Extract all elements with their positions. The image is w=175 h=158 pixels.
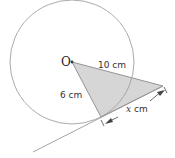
center-point [71,61,74,64]
geometry-diagram: O 10 cm 6 cm x cm [0,0,175,158]
center-label: O [61,55,71,69]
tangent-unit: cm [131,104,148,114]
tangent-length-label: x cm [126,104,148,114]
hypotenuse-label: 10 cm [98,60,126,70]
radius-label: 6 cm [60,90,82,100]
